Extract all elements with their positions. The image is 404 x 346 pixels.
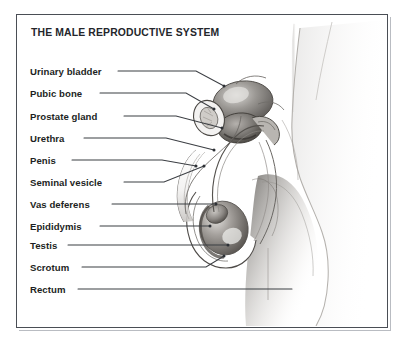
label-rectum: Rectum: [30, 284, 66, 295]
label-vas-deferens: Vas deferens: [30, 199, 90, 210]
label-seminal-vesicle: Seminal vesicle: [30, 177, 102, 188]
label-pubic-bone: Pubic bone: [30, 88, 82, 99]
figure-title: THE MALE REPRODUCTIVE SYSTEM: [31, 27, 219, 38]
figure-canvas: THE MALE REPRODUCTIVE SYSTEM: [0, 0, 404, 346]
label-penis: Penis: [30, 155, 56, 166]
label-urinary-bladder: Urinary bladder: [30, 66, 102, 77]
figure-border: [16, 14, 388, 328]
label-prostate-gland: Prostate gland: [30, 111, 97, 122]
label-scrotum: Scrotum: [30, 262, 69, 273]
label-testis: Testis: [30, 240, 57, 251]
label-epididymis: Epididymis: [30, 221, 82, 232]
label-urethra: Urethra: [30, 133, 64, 144]
